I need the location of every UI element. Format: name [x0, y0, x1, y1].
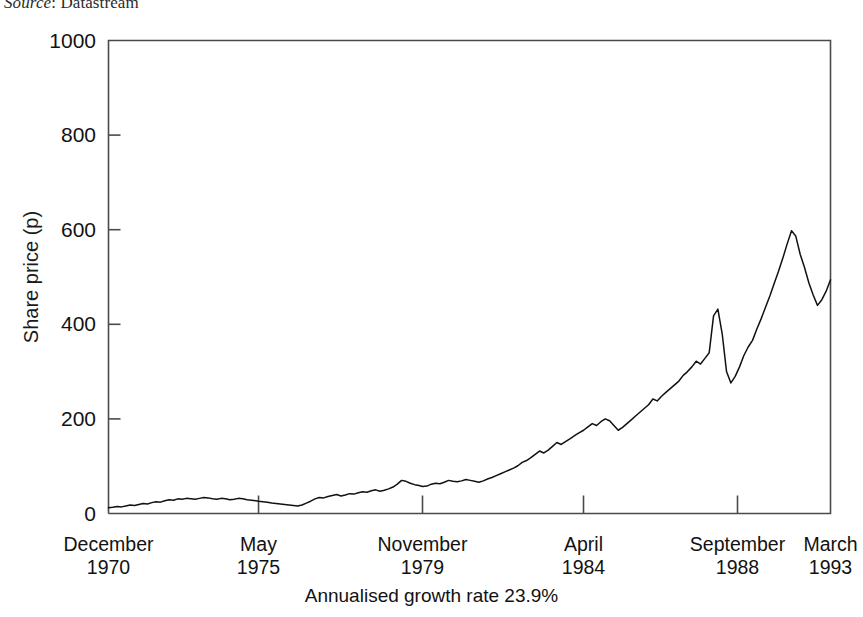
x-tick-year: 1975: [237, 556, 280, 579]
x-tick-year: 1993: [803, 556, 857, 579]
x-tick-month: May: [237, 533, 280, 556]
x-tick-month: December: [64, 533, 154, 556]
x-axis-tick-labels: December1970May1975November1979April1984…: [0, 0, 863, 617]
x-tick-month: April: [562, 533, 605, 556]
x-tick-year: 1988: [690, 556, 785, 579]
share-price-line-chart: Share price (p) 02004006008001000 Decemb…: [0, 0, 863, 617]
x-tick-year: 1979: [378, 556, 468, 579]
growth-rate-caption: Annualised growth rate 23.9%: [0, 585, 863, 607]
x-tick-month: November: [378, 533, 468, 556]
x-tick-year: 1984: [562, 556, 605, 579]
x-axis-tick-label: March1993: [803, 533, 857, 579]
x-axis-tick-label: May1975: [237, 533, 280, 579]
x-tick-year: 1970: [64, 556, 154, 579]
x-axis-tick-label: December1970: [64, 533, 154, 579]
x-tick-month: September: [690, 533, 785, 556]
x-axis-tick-label: September1988: [690, 533, 785, 579]
x-axis-tick-label: April1984: [562, 533, 605, 579]
x-tick-month: March: [803, 533, 857, 556]
x-axis-tick-label: November1979: [378, 533, 468, 579]
